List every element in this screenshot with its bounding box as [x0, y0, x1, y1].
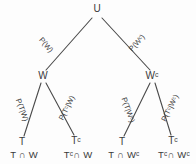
node-t-given-w: T	[19, 137, 25, 147]
node-universe: U	[93, 4, 100, 14]
edge-root-to-w	[46, 18, 92, 70]
outcome-t-intersect-wc: T ∩ Wᶜ	[108, 150, 139, 160]
node-tc-given-w: Tᶜ	[71, 136, 81, 146]
outcome-tc-intersect-w: Tᶜ∩ W	[64, 150, 93, 160]
node-w: W	[38, 71, 47, 81]
outcome-tc-intersect-wc: Tᶜ∩ Wᶜ	[158, 150, 190, 160]
edge-root-to-wc	[102, 18, 150, 70]
node-tc-given-wc: Tᶜ	[168, 136, 178, 146]
probability-tree-diagram: U W Wᶜ P(W) P(Wᶜ) T Tᶜ T Tᶜ P(T|W) P(Tᶜ|…	[0, 0, 196, 164]
outcome-t-intersect-w: T ∩ W	[10, 150, 38, 160]
tree-edges-group	[0, 0, 196, 164]
node-w-complement: Wᶜ	[146, 71, 159, 81]
node-t-given-wc: T	[119, 137, 125, 147]
